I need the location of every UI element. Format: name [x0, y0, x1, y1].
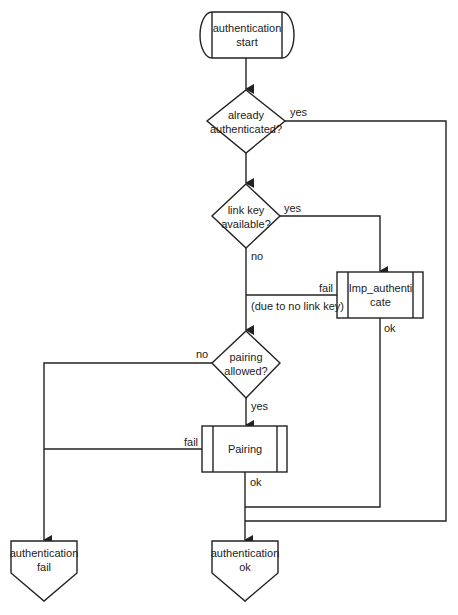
node-auth-start: authentication start: [212, 12, 282, 58]
node-pairing-allowed-line1: pairing: [229, 350, 262, 364]
node-auth-fail-line2: fail: [37, 560, 51, 574]
node-auth-ok-line1: authentication: [211, 546, 280, 560]
node-already-line2: authenticated?: [210, 122, 282, 136]
label-pairing-ok: ok: [250, 476, 262, 489]
label-imp-ok: ok: [384, 322, 396, 335]
label-imp-fail: fail: [319, 282, 333, 295]
label-link-yes: yes: [284, 202, 301, 215]
label-pairing-fail: fail: [184, 436, 198, 449]
node-link-key-line2: available?: [221, 217, 271, 231]
node-pairing-allowed-line2: allowed?: [224, 364, 267, 378]
node-auth-fail: authentication fail: [11, 545, 77, 575]
node-auth-ok: authentication ok: [212, 545, 278, 575]
node-auth-fail-line1: authentication: [10, 546, 79, 560]
flowchart-canvas: authentication start already authenticat…: [0, 0, 458, 615]
edge-link-yes: [280, 216, 380, 271]
node-imp-line2: cate: [370, 295, 391, 309]
node-imp-authenticate: Imp_authenti cate: [348, 272, 413, 318]
node-imp-line1: Imp_authenti: [349, 281, 413, 295]
node-link-key-available: link key available?: [212, 202, 280, 232]
node-link-key-line1: link key: [228, 203, 265, 217]
node-already-authenticated: already authenticated?: [207, 107, 285, 137]
node-pairing: Pairing: [213, 426, 277, 472]
edge-pairing-no: [44, 363, 212, 540]
node-pairing-allowed: pairing allowed?: [212, 349, 280, 379]
node-auth-start-line1: authentication: [213, 21, 282, 35]
node-auth-ok-line2: ok: [239, 560, 251, 574]
label-already-yes: yes: [290, 106, 307, 119]
label-imp-fail-note: (due to no link key): [251, 300, 344, 313]
node-pairing-line1: Pairing: [228, 442, 262, 456]
node-auth-start-line2: start: [236, 35, 257, 49]
label-pairing-yes: yes: [251, 400, 268, 413]
label-link-no: no: [251, 250, 263, 263]
label-pairing-no: no: [196, 348, 208, 361]
node-already-line1: already: [228, 108, 264, 122]
